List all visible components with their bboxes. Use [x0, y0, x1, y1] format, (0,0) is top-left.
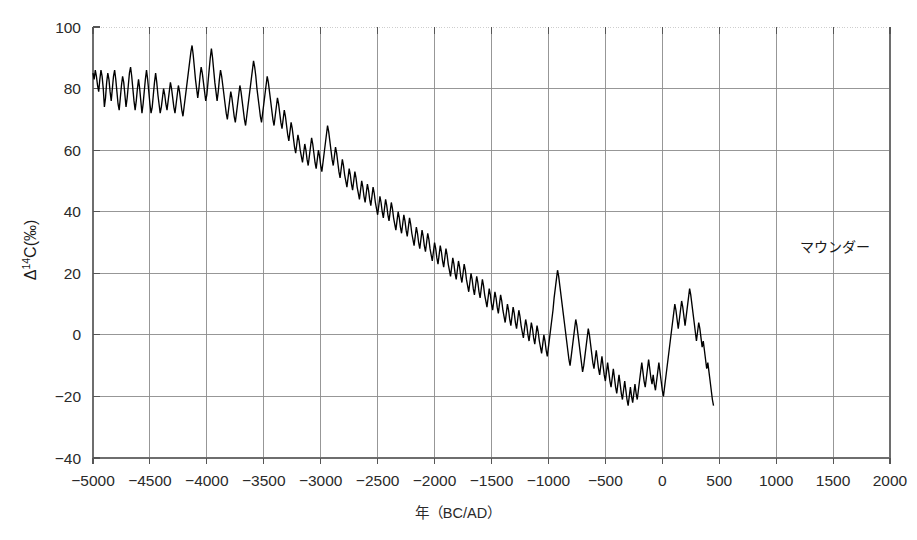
- chart-annotations: マウンダー: [800, 239, 870, 255]
- x-tick-label: −2000: [413, 472, 457, 489]
- x-tick-label: −4000: [185, 472, 229, 489]
- x-tick-label: 500: [706, 472, 732, 489]
- y-axis-title: Δ14C(‰): [20, 220, 39, 281]
- y-axis-unit: C(‰): [22, 220, 39, 258]
- y-tick-label: 20: [64, 265, 82, 282]
- x-tick-label: −1000: [527, 472, 571, 489]
- gridlines: [93, 27, 890, 458]
- x-tick-label: −2500: [356, 472, 400, 489]
- chart-canvas: −5000−4500−4000−3500−3000−2500−2000−1500…: [0, 0, 917, 540]
- data-series-layer: [93, 45, 714, 405]
- x-tick-label: 1000: [759, 472, 794, 489]
- x-tick-label: 2000: [873, 472, 908, 489]
- y-axis-title-text: Δ14C(‰): [20, 220, 39, 281]
- y-tick-label: −20: [55, 388, 82, 405]
- y-tick-label: 100: [55, 19, 81, 36]
- x-tick-label: −5000: [71, 472, 115, 489]
- y-axis-delta-glyph: Δ: [22, 269, 39, 280]
- y-tick-label: 80: [64, 80, 82, 97]
- y-tick-label: −40: [55, 450, 82, 467]
- data-series-line: [93, 45, 714, 405]
- x-tick-label: 0: [658, 472, 667, 489]
- x-tick-label: −3000: [299, 472, 343, 489]
- x-tick-label: −3500: [242, 472, 286, 489]
- y-tick-label: 0: [72, 326, 81, 343]
- x-tick-label: 1500: [816, 472, 851, 489]
- maunder-annotation: マウンダー: [800, 239, 870, 255]
- x-tick-labels: −5000−4500−4000−3500−3000−2500−2000−1500…: [71, 472, 907, 489]
- y-tick-labels: 100806040200−20−40: [55, 19, 82, 467]
- x-axis-title: 年（BC/AD）: [415, 505, 501, 521]
- delta14c-chart: −5000−4500−4000−3500−3000−2500−2000−1500…: [0, 0, 917, 540]
- x-tick-label: −500: [588, 472, 623, 489]
- x-tick-label: −1500: [470, 472, 514, 489]
- y-tick-label: 40: [64, 203, 82, 220]
- y-axis-superscript: 14: [20, 258, 32, 270]
- x-tick-label: −4500: [128, 472, 172, 489]
- y-tick-label: 60: [64, 142, 82, 159]
